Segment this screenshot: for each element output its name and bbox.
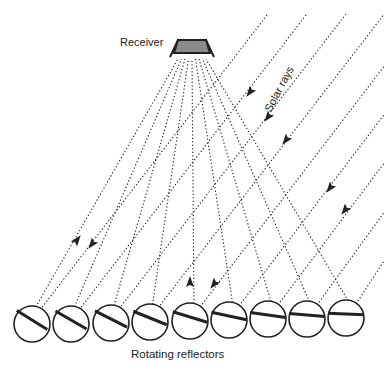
receiver-label: Receiver	[120, 36, 163, 48]
rotating-reflectors-label: Rotating reflectors	[131, 348, 224, 360]
mirror-plate	[328, 313, 364, 314]
solar-tower-diagram	[0, 0, 392, 372]
ray-lines	[34, 14, 384, 310]
reflected-ray	[34, 59, 178, 310]
arrowhead	[243, 86, 256, 100]
arrowhead	[207, 278, 220, 292]
reflected-ray	[199, 59, 272, 305]
arrow-icon	[85, 238, 98, 252]
incoming-solar-ray	[40, 14, 268, 310]
rotating-reflector	[289, 301, 325, 337]
reflected-ray	[73, 59, 182, 310]
rotating-reflector	[132, 304, 168, 340]
arrow-icon	[338, 204, 351, 218]
rotating-reflector	[250, 301, 286, 337]
arrowhead	[338, 204, 351, 218]
rotating-reflector	[14, 306, 50, 342]
reflector-row	[14, 300, 364, 342]
rotating-reflector	[53, 306, 89, 342]
reflector-circle	[93, 305, 129, 341]
reflector-circle	[250, 301, 286, 337]
reflected-ray	[192, 59, 194, 307]
incoming-solar-ray	[79, 14, 307, 310]
arrow-icon	[186, 276, 194, 287]
incoming-solar-ray	[317, 213, 384, 305]
arrow-icon	[71, 233, 84, 247]
reflected-ray	[152, 59, 189, 308]
arrow-icon	[207, 278, 220, 292]
rotating-reflector	[211, 302, 247, 338]
rotating-reflector	[328, 300, 364, 336]
incoming-solar-ray	[239, 115, 384, 306]
ray-arrows	[71, 86, 351, 292]
arrowhead	[323, 182, 336, 196]
rotating-reflector	[93, 305, 129, 341]
reflected-ray	[113, 59, 185, 309]
arrowhead	[85, 238, 98, 252]
reflector-circle	[328, 300, 364, 336]
receiver-body	[174, 40, 210, 53]
arrowhead	[186, 276, 194, 287]
receiver-icon	[170, 40, 214, 57]
arrowhead	[71, 233, 84, 247]
rotating-reflector	[172, 303, 208, 339]
reflector-circle	[289, 301, 325, 337]
arrow-icon	[243, 86, 256, 100]
arrow-icon	[323, 182, 336, 196]
reflected-ray	[196, 59, 234, 306]
incoming-solar-ray	[356, 261, 384, 304]
reflected-ray	[203, 59, 312, 305]
